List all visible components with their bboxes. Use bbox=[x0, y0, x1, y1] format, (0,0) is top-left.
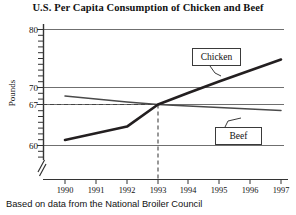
chart-container: U.S. Per Capita Consumption of Chicken a… bbox=[0, 0, 296, 215]
series-callout-beef: Beef bbox=[215, 127, 262, 145]
beef-callout-leader bbox=[225, 118, 241, 127]
y-axis-minor-ticks bbox=[37, 30, 43, 158]
chart-source-caption: Based on data from the National Broiler … bbox=[6, 199, 202, 209]
axis-break-icon bbox=[38, 160, 46, 176]
chart-plot-svg bbox=[0, 0, 296, 215]
series-callout-chicken: Chicken bbox=[192, 48, 241, 66]
chicken-callout-leader bbox=[210, 66, 221, 76]
